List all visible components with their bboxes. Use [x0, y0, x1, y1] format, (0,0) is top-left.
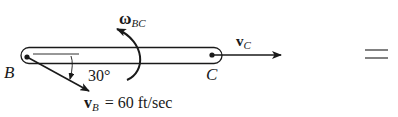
- velocity-b-label: vB= 60 ft/sec: [84, 95, 172, 111]
- equals-sign: [365, 50, 388, 58]
- angle-label: 30°: [88, 68, 110, 84]
- angle-arc: [70, 56, 72, 79]
- vc-subscript: C: [244, 39, 251, 51]
- velocity-c-label: vC: [236, 33, 251, 49]
- angular-velocity-arrow: [117, 29, 140, 80]
- vc-symbol: v: [236, 33, 244, 49]
- kinematics-diagram: B 30° ωBC C vC vB= 60 ft/sec: [0, 0, 398, 117]
- diagram-graphics: [0, 0, 398, 117]
- vb-subscript: B: [92, 101, 99, 113]
- angular-velocity-label: ωBC: [119, 10, 146, 27]
- bar-bc: [21, 48, 222, 64]
- omega-symbol: ω: [119, 9, 131, 28]
- point-b-label: B: [4, 64, 14, 81]
- vb-equation: = 60 ft/sec: [105, 94, 173, 111]
- vb-symbol: v: [84, 94, 92, 111]
- omega-subscript: BC: [131, 17, 145, 29]
- point-c-label: C: [206, 66, 217, 83]
- velocity-b-arrow: [27, 57, 89, 91]
